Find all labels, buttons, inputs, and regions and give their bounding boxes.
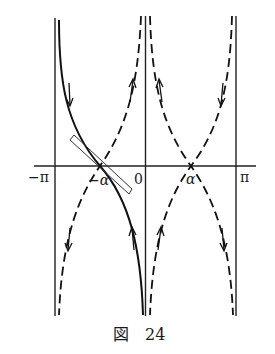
phase-diagram: −π 0 π −α α 図 24 [0,0,275,354]
label-neg-alpha: −α [88,172,110,188]
figure-caption: 図 24 [113,325,165,344]
arrow-up-icon [157,227,164,250]
label-alpha: α [186,171,196,187]
label-zero: 0 [134,171,143,187]
label-neg-pi: −π [28,169,49,185]
label-pi: π [240,169,249,185]
solid-curve [59,20,143,315]
